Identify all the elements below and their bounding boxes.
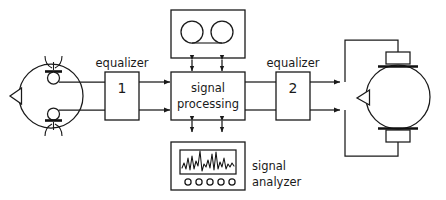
signal-processing-label-line2: processing (177, 97, 239, 111)
analyzer-knob-4[interactable] (218, 179, 224, 185)
signal-analyzer-label-line1: signal (252, 159, 286, 173)
diagram-svg: equalizer 1 signal processing (0, 0, 446, 200)
analyzer-knob-3[interactable] (207, 179, 213, 185)
waveform-screen-icon[interactable] (171, 142, 245, 190)
analyzer-knob-2[interactable] (196, 179, 202, 185)
signal-analyzer-label-line2: analyzer (252, 175, 301, 189)
signal-processing-label-line1: signal (191, 81, 225, 95)
equalizer-1-label: equalizer (96, 56, 149, 70)
head-with-in-ear-microphones-icon (10, 56, 83, 136)
equalizer-2-label: equalizer (267, 56, 320, 70)
tape-reel-left (181, 21, 203, 43)
head-with-headphones-icon (357, 52, 430, 142)
tape-reels-icon[interactable] (171, 10, 245, 58)
equalizer-2-number: 2 (289, 80, 298, 96)
head-outline-right (366, 65, 430, 129)
earpiece-bottom (378, 129, 418, 143)
analyzer-knob-1[interactable] (185, 179, 191, 185)
nose-left (10, 88, 22, 104)
nose-right (357, 90, 370, 105)
tape-reel-right (211, 21, 233, 43)
earpiece-top (378, 52, 418, 67)
block-diagram-canvas: equalizer 1 signal processing (0, 0, 446, 200)
analyzer-knob-5[interactable] (229, 179, 235, 185)
equalizer-1-number: 1 (118, 80, 127, 96)
